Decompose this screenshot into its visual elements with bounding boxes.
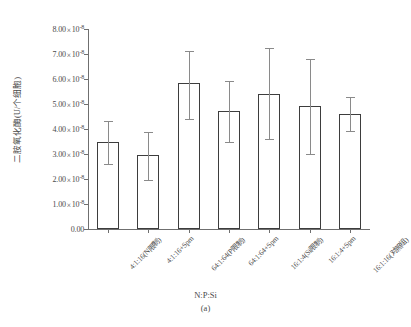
x-axis-tick bbox=[350, 229, 351, 233]
y-axis-tick-label: 3.00×10-8 bbox=[53, 149, 84, 160]
y-axis-tick bbox=[84, 79, 88, 80]
error-bar-5 bbox=[269, 48, 270, 139]
x-axis-tick-label-3: 64:1:64(P限制) bbox=[207, 234, 246, 273]
y-axis-tick-labels: 0.001.00×10-82.00×10-83.00×10-84.00×10-8… bbox=[26, 0, 84, 327]
error-cap-upper-1 bbox=[104, 121, 113, 122]
error-cap-lower-5 bbox=[265, 139, 274, 140]
error-cap-lower-1 bbox=[104, 164, 113, 165]
x-axis-tick bbox=[269, 229, 270, 233]
y-axis-tick-label: 0.00 bbox=[71, 225, 84, 234]
error-cap-upper-5 bbox=[265, 48, 274, 49]
y-axis-tick-label: 8.00×10-8 bbox=[53, 24, 84, 35]
y-axis-tick bbox=[84, 129, 88, 130]
y-axis-tick bbox=[84, 154, 88, 155]
y-axis-tick-label: 4.00×10-8 bbox=[53, 124, 84, 135]
error-cap-upper-6 bbox=[306, 59, 315, 60]
y-axis-tick-label: 7.00×10-8 bbox=[53, 49, 84, 60]
y-axis-tick bbox=[84, 54, 88, 55]
error-bar-1 bbox=[108, 121, 109, 164]
x-axis-tick-label-7: 16:1:16(对照组) bbox=[369, 234, 410, 275]
y-axis-tick bbox=[84, 229, 88, 230]
error-bar-6 bbox=[310, 59, 311, 154]
error-cap-upper-7 bbox=[346, 97, 355, 98]
x-axis-tick bbox=[148, 229, 149, 233]
y-axis-title: 二胺氧化酶(U/个细胞) bbox=[10, 40, 26, 200]
y-axis-tick-label: 6.00×10-8 bbox=[53, 74, 84, 85]
y-axis-line bbox=[88, 29, 89, 229]
x-axis-tick-label-6: 16:1:4+Spm bbox=[326, 234, 357, 265]
error-cap-upper-4 bbox=[225, 81, 234, 82]
error-bar-4 bbox=[229, 81, 230, 142]
error-cap-lower-4 bbox=[225, 142, 234, 143]
y-axis-tick bbox=[84, 179, 88, 180]
error-cap-lower-6 bbox=[306, 154, 315, 155]
error-cap-lower-7 bbox=[346, 131, 355, 132]
y-axis-tick-label: 5.00×10-8 bbox=[53, 99, 84, 110]
x-axis-tick bbox=[310, 229, 311, 233]
y-axis-tick-label: 2.00×10-8 bbox=[53, 174, 84, 185]
x-axis-tick-label-4: 64:1:64+Spm bbox=[246, 234, 280, 268]
y-axis-tick bbox=[84, 29, 88, 30]
y-axis-tick-label: 1.00×10-8 bbox=[53, 199, 84, 210]
x-axis-tick-label-2: 4:1:16+Spm bbox=[165, 234, 196, 265]
error-bar-3 bbox=[189, 51, 190, 119]
x-axis-tick-label-1: 4:1:16(N限制) bbox=[126, 234, 163, 271]
x-axis-tick bbox=[229, 229, 230, 233]
chart-root: 二胺氧化酶(U/个细胞) 0.001.00×10-82.00×10-83.00×… bbox=[0, 0, 411, 327]
y-axis-tick bbox=[84, 204, 88, 205]
x-axis-tick-label-5: 16:1:4(Si限制) bbox=[288, 234, 325, 271]
error-bar-2 bbox=[148, 132, 149, 180]
error-cap-upper-2 bbox=[144, 132, 153, 133]
figure-caption: (a) bbox=[0, 303, 411, 313]
error-cap-lower-2 bbox=[144, 180, 153, 181]
error-cap-lower-3 bbox=[185, 119, 194, 120]
plot-area bbox=[88, 29, 370, 229]
x-axis-tick bbox=[189, 229, 190, 233]
x-axis-title: N:P:Si bbox=[0, 290, 411, 300]
error-bar-7 bbox=[350, 97, 351, 131]
error-cap-upper-3 bbox=[185, 51, 194, 52]
x-axis-tick bbox=[108, 229, 109, 233]
y-axis-tick bbox=[84, 104, 88, 105]
